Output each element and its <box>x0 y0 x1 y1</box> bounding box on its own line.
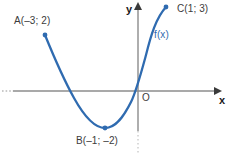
function-curve <box>45 7 166 128</box>
point-label-b: B(–1; –2) <box>76 136 118 146</box>
point-label-a: A(–3; 2) <box>14 16 50 26</box>
point-label-c: C(1; 3) <box>177 4 208 14</box>
origin-label: O <box>142 93 150 103</box>
point-marker-c <box>164 5 169 10</box>
function-label: f(x) <box>154 30 169 40</box>
point-marker-a <box>43 33 48 38</box>
function-graph-figure: A(–3; 2) B(–1; –2) C(1; 3) f(x) O y x <box>0 0 232 157</box>
point-marker-b <box>103 126 108 131</box>
x-axis-label: x <box>219 95 225 106</box>
y-axis-label: y <box>126 4 132 15</box>
